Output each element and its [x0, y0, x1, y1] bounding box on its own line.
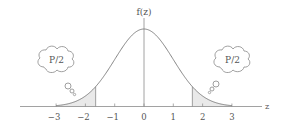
- left-tail-callout: P/2: [38, 46, 76, 96]
- left-tail-shaded-area: [56, 87, 96, 107]
- x-tick-label: 0: [141, 112, 146, 122]
- right-cloud-bubble-2: [210, 87, 214, 91]
- x-axis-label: z: [265, 102, 269, 111]
- x-tick-label: −1: [106, 112, 119, 122]
- normal-distribution-diagram: −3−2−10123 f(z) z P/2 P/2: [0, 0, 285, 130]
- x-tick-label: 3: [229, 112, 234, 122]
- x-tick-label: 2: [200, 112, 205, 122]
- x-tick-label: −2: [77, 112, 90, 122]
- left-cloud-bubble-1: [65, 83, 71, 89]
- right-cloud-bubble-3: [208, 91, 210, 93]
- left-tail-label: P/2: [49, 55, 64, 65]
- left-cloud-bubble-3: [73, 93, 75, 95]
- x-tick-label: −3: [48, 112, 61, 122]
- x-tick-label: 1: [171, 112, 176, 122]
- y-axis-label: f(z): [136, 7, 151, 17]
- right-tail-label: P/2: [225, 55, 240, 65]
- right-cloud-bubble-1: [213, 81, 219, 87]
- x-tick-labels: −3−2−10123: [48, 112, 235, 122]
- left-cloud-bubble-2: [70, 89, 74, 93]
- right-tail-callout: P/2: [208, 46, 250, 94]
